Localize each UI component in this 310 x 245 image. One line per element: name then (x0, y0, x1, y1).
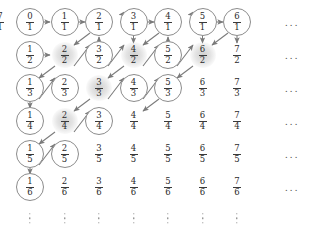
denominator: 1 (0, 23, 4, 32)
node-layer: 0111213141516171...12223242526272...1323… (0, 0, 310, 245)
fraction: 62 (199, 45, 207, 64)
fraction: 51 (199, 12, 207, 31)
fraction: 63 (199, 78, 207, 97)
denominator: 1 (26, 23, 33, 32)
fraction-node-7-over-4: 74 (224, 108, 250, 134)
fraction-node-3-over-6: 36 (86, 174, 112, 200)
denominator: 4 (26, 122, 33, 131)
fraction-node-3-over-5: 35 (86, 141, 112, 167)
row-ellipsis: ... (285, 17, 299, 28)
numerator: 1 (26, 45, 33, 54)
fraction-node-7-over-6: 76 (224, 174, 250, 200)
fraction-node-2-over-1: 21 (85, 8, 113, 36)
denominator: 5 (233, 155, 240, 164)
numerator: 5 (199, 12, 206, 21)
fraction-node-2-over-6: 26 (52, 174, 78, 200)
fraction: 42 (130, 45, 138, 64)
fraction-node-1-over-4: 14 (16, 107, 44, 135)
denominator: 4 (130, 122, 137, 131)
column-ellipsis (64, 211, 65, 225)
fraction: 35 (95, 144, 103, 163)
fraction: 71 (0, 12, 4, 31)
fraction-node-5-over-5: 55 (155, 141, 181, 167)
numerator: 5 (164, 45, 171, 54)
denominator: 3 (199, 89, 206, 98)
denominator: 5 (61, 155, 68, 164)
fraction-node-7-over-2: 72 (224, 42, 250, 68)
row-ellipsis: ... (285, 116, 299, 127)
denominator: 4 (95, 122, 102, 131)
column-ellipsis (167, 211, 168, 225)
denominator: 3 (130, 89, 137, 98)
fraction: 13 (26, 78, 34, 97)
fraction: 23 (61, 78, 69, 97)
denominator: 6 (164, 188, 171, 197)
fraction: 73 (233, 78, 241, 97)
denominator: 1 (61, 23, 68, 32)
fraction: 64 (199, 111, 207, 130)
numerator: 1 (26, 144, 33, 153)
fraction-node-7-over-1: 71 (0, 9, 13, 35)
numerator: 6 (199, 45, 206, 54)
fraction-node-1-over-5: 15 (16, 140, 44, 168)
numerator: 3 (95, 111, 102, 120)
fraction: 52 (164, 45, 172, 64)
numerator: 4 (130, 45, 137, 54)
numerator: 7 (233, 144, 240, 153)
fraction-node-2-over-5: 25 (51, 140, 79, 168)
numerator: 1 (26, 78, 33, 87)
numerator: 7 (233, 111, 240, 120)
numerator: 4 (164, 12, 171, 21)
denominator: 5 (164, 155, 171, 164)
denominator: 6 (130, 188, 137, 197)
denominator: 1 (199, 23, 206, 32)
denominator: 4 (61, 122, 68, 131)
fraction-node-3-over-2: 32 (85, 41, 113, 69)
fraction: 41 (164, 12, 172, 31)
numerator: 2 (95, 12, 102, 21)
numerator: 3 (95, 78, 102, 87)
denominator: 1 (95, 23, 102, 32)
numerator: 5 (164, 78, 171, 87)
fraction-node-2-over-3: 23 (51, 74, 79, 102)
column-ellipsis (133, 211, 134, 225)
fraction: 72 (233, 45, 241, 64)
fraction: 55 (164, 144, 172, 163)
fraction-node-4-over-2: 42 (121, 42, 147, 68)
numerator: 1 (61, 12, 68, 21)
numerator: 7 (233, 45, 240, 54)
fraction: 25 (61, 144, 69, 163)
fraction-node-4-over-1: 41 (154, 8, 182, 36)
denominator: 3 (61, 89, 68, 98)
row-ellipsis: ... (285, 149, 299, 160)
fraction: 33 (95, 78, 103, 97)
fraction-node-3-over-1: 31 (120, 8, 148, 36)
fraction-node-6-over-1: 61 (223, 8, 251, 36)
denominator: 2 (199, 56, 206, 65)
numerator: 7 (0, 12, 4, 21)
denominator: 3 (26, 89, 33, 98)
fraction: 22 (61, 45, 69, 64)
denominator: 1 (164, 23, 171, 32)
numerator: 7 (233, 177, 240, 186)
numerator: 4 (130, 111, 137, 120)
numerator: 5 (164, 144, 171, 153)
numerator: 3 (95, 177, 102, 186)
numerator: 6 (199, 78, 206, 87)
denominator: 6 (233, 188, 240, 197)
denominator: 5 (26, 155, 33, 164)
fraction: 01 (26, 12, 34, 31)
denominator: 3 (164, 89, 171, 98)
row-ellipsis: ... (285, 182, 299, 193)
denominator: 2 (61, 56, 68, 65)
fraction: 12 (26, 45, 34, 64)
fraction-node-6-over-3: 63 (190, 75, 216, 101)
fraction-node-4-over-3: 43 (120, 74, 148, 102)
numerator: 1 (26, 177, 33, 186)
fraction: 44 (130, 111, 138, 130)
denominator: 2 (233, 56, 240, 65)
numerator: 4 (130, 78, 137, 87)
denominator: 5 (95, 155, 102, 164)
fraction-node-6-over-2: 62 (190, 42, 216, 68)
fraction: 11 (61, 12, 69, 31)
